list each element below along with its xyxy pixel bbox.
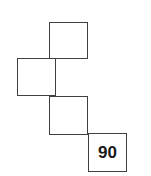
square-middle-label xyxy=(50,97,87,134)
square-bottom-right: 90 xyxy=(88,133,127,172)
square-middle xyxy=(49,96,88,135)
square-left-label xyxy=(18,59,55,95)
square-bottom-right-label: 90 xyxy=(89,134,126,171)
square-top xyxy=(49,22,88,59)
square-top-label xyxy=(50,23,87,58)
square-left xyxy=(17,58,56,96)
figure-canvas: 90 xyxy=(0,0,151,176)
